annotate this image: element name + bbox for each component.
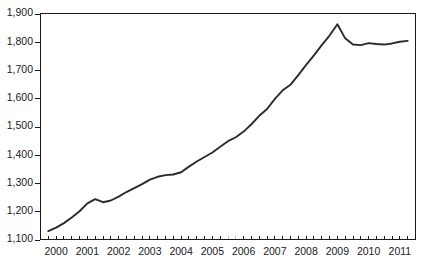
x-tick-label: 2006 — [232, 245, 256, 257]
y-tick-label: 1,400 — [7, 148, 33, 160]
y-axis-tick-labels: 1,1001,2001,3001,4001,5001,6001,7001,800… — [7, 6, 33, 244]
chart-canvas: 1,1001,2001,3001,4001,5001,6001,7001,800… — [0, 0, 427, 265]
x-tick-label: 2008 — [294, 245, 318, 257]
y-tick-label: 1,100 — [7, 232, 33, 244]
y-tick-label: 1,700 — [7, 63, 33, 75]
x-tick-label: 2001 — [76, 245, 100, 257]
x-tick-label: 2004 — [169, 245, 193, 257]
y-tick-label: 1,200 — [7, 204, 33, 216]
x-tick-label: 2011 — [389, 245, 412, 257]
y-tick-label: 1,800 — [7, 35, 33, 47]
y-axis-tick-marks — [35, 14, 40, 240]
plot-background — [40, 13, 416, 239]
y-tick-label: 1,900 — [7, 6, 33, 18]
x-tick-label: 2010 — [357, 245, 381, 257]
y-tick-label: 1,600 — [7, 91, 33, 103]
x-tick-label: 2000 — [44, 245, 68, 257]
x-axis-tick-labels: 2000200120022003200420052006200720082009… — [44, 245, 411, 257]
y-tick-label: 1,500 — [7, 119, 33, 131]
x-tick-label: 2005 — [201, 245, 225, 257]
x-tick-label: 2003 — [138, 245, 162, 257]
x-tick-label: 2002 — [107, 245, 131, 257]
x-tick-label: 2009 — [326, 245, 350, 257]
x-tick-label: 2007 — [263, 245, 287, 257]
line-chart: 1,1001,2001,3001,4001,5001,6001,7001,800… — [0, 0, 427, 265]
y-tick-label: 1,300 — [7, 176, 33, 188]
